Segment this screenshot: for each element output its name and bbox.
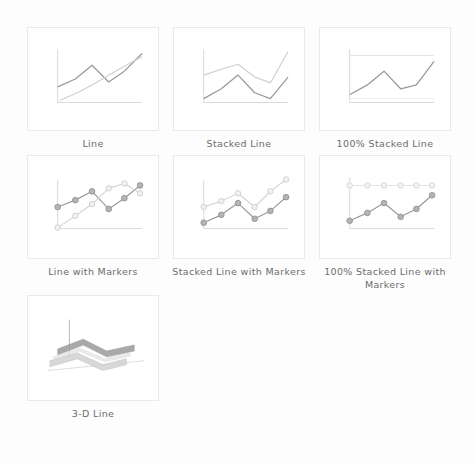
chart-type-tile-line[interactable]: Line bbox=[26, 27, 160, 150]
line-with-markers-chart-icon[interactable] bbox=[27, 155, 159, 259]
chart-type-label: Stacked Line bbox=[172, 137, 306, 150]
chart-type-tile-stacked-line-with-markers[interactable]: Stacked Line with Markers bbox=[172, 155, 306, 278]
chart-type-row: Line with Markers bbox=[26, 155, 458, 291]
chart-type-tile-100-stacked-line[interactable]: 100% Stacked Line bbox=[318, 27, 452, 150]
chart-type-label: Line with Markers bbox=[26, 265, 160, 278]
3d-line-chart-icon[interactable] bbox=[27, 295, 159, 401]
100-stacked-line-with-markers-chart-icon[interactable] bbox=[319, 155, 451, 259]
chart-type-row: 3-D Line bbox=[26, 295, 458, 420]
chart-type-gallery: Line Stacked Line bbox=[26, 27, 458, 420]
chart-type-label: 100% Stacked Line bbox=[318, 137, 452, 150]
stacked-line-with-markers-chart-icon[interactable] bbox=[173, 155, 305, 259]
100-stacked-line-chart-icon[interactable] bbox=[319, 27, 451, 131]
chart-type-label: Stacked Line with Markers bbox=[172, 265, 306, 278]
chart-type-label: 100% Stacked Line with Markers bbox=[318, 265, 452, 291]
stacked-line-chart-icon[interactable] bbox=[173, 27, 305, 131]
chart-type-tile-3-d-line[interactable]: 3-D Line bbox=[26, 295, 160, 420]
chart-type-row: Line Stacked Line bbox=[26, 27, 458, 150]
chart-type-tile-100-stacked-line-with-markers[interactable]: 100% Stacked Line with Markers bbox=[318, 155, 452, 291]
chart-type-label: 3-D Line bbox=[26, 407, 160, 420]
chart-type-tile-stacked-line[interactable]: Stacked Line bbox=[172, 27, 306, 150]
chart-type-tile-line-with-markers[interactable]: Line with Markers bbox=[26, 155, 160, 278]
line-chart-icon[interactable] bbox=[27, 27, 159, 131]
chart-type-label: Line bbox=[26, 137, 160, 150]
